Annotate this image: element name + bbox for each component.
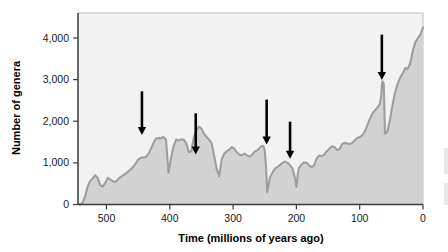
x-tick-label: 300 [224,212,242,224]
chart-svg: 01,0002,0003,0004,000 5004003002001000 T… [0,0,448,252]
y-tick-label: 0 [63,198,69,210]
x-tick-label: 100 [351,212,369,224]
page-edge-artifact-top [444,148,448,174]
y-tick-label: 4,000 [43,32,69,44]
y-axis-title: Number of genera [10,60,22,155]
x-tick-label: 400 [161,212,179,224]
y-tick-label: 1,000 [43,156,69,168]
x-axis-title: Time (millions of years ago) [178,232,324,244]
y-tick-label: 2,000 [43,115,69,127]
page-edge-artifact-bottom [444,183,448,205]
diversity-chart-figure: 01,0002,0003,0004,000 5004003002001000 T… [0,0,448,252]
x-tick-label: 500 [98,212,116,224]
x-tick-label: 0 [420,212,426,224]
x-tick-label: 200 [288,212,306,224]
y-axis-ticks: 01,0002,0003,0004,000 [43,32,78,211]
x-axis-ticks: 5004003002001000 [98,205,426,224]
y-tick-label: 3,000 [43,73,69,85]
